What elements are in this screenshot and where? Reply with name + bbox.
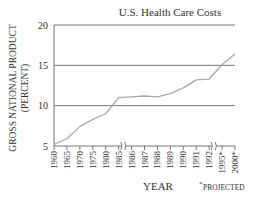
grid (54, 25, 235, 106)
y-tick-label-5: 5 (43, 141, 48, 152)
y-tick-label-20: 20 (38, 20, 48, 31)
x-tick-label-1989: 1989 (165, 151, 175, 170)
y-axis-label-line2: (PERCENT) (20, 64, 31, 113)
x-tick-label-1988: 1988 (152, 151, 162, 170)
x-tick-label-1975: 1975 (88, 151, 98, 170)
x-tick-label-1985: 1985 (114, 151, 124, 170)
x-tick-label-1992: 1992 (204, 151, 214, 169)
y-tick-label-15: 15 (38, 60, 48, 71)
y-axis-label: GROSS NATIONAL PRODUCT (PERCENT) (8, 24, 31, 152)
axes (54, 25, 235, 146)
x-tick-label-1990: 1990 (178, 151, 188, 170)
chart: U.S. Health Care Costs GROSS NATIONAL PR… (0, 0, 258, 207)
series (54, 54, 235, 144)
chart-title: U.S. Health Care Costs (119, 6, 221, 18)
x-tick-label-2000: 2000* (230, 151, 240, 174)
x-tick-labels: 1960196519701975198019851986198719881989… (49, 151, 240, 174)
y-tick-label-10: 10 (38, 100, 48, 111)
y-axis-label-line1: GROSS NATIONAL PRODUCT (8, 24, 18, 152)
x-tick-label-1960: 1960 (49, 151, 59, 170)
y-tick-labels: 5101520 (38, 20, 48, 152)
x-tick-label-1965: 1965 (62, 151, 72, 170)
x-tick-label-1995: 1995* (217, 151, 227, 174)
x-tick-label-1991: 1991 (191, 151, 201, 169)
x-tick-label-1980: 1980 (101, 151, 111, 170)
footnote-projected: PROJECTED (203, 183, 245, 192)
x-axis-label: YEAR (143, 180, 174, 192)
x-tick-label-1970: 1970 (75, 151, 85, 170)
series-line-0 (54, 54, 235, 144)
x-tick-marks (54, 146, 235, 150)
x-tick-label-1986: 1986 (127, 151, 137, 170)
x-tick-label-1987: 1987 (140, 151, 150, 170)
